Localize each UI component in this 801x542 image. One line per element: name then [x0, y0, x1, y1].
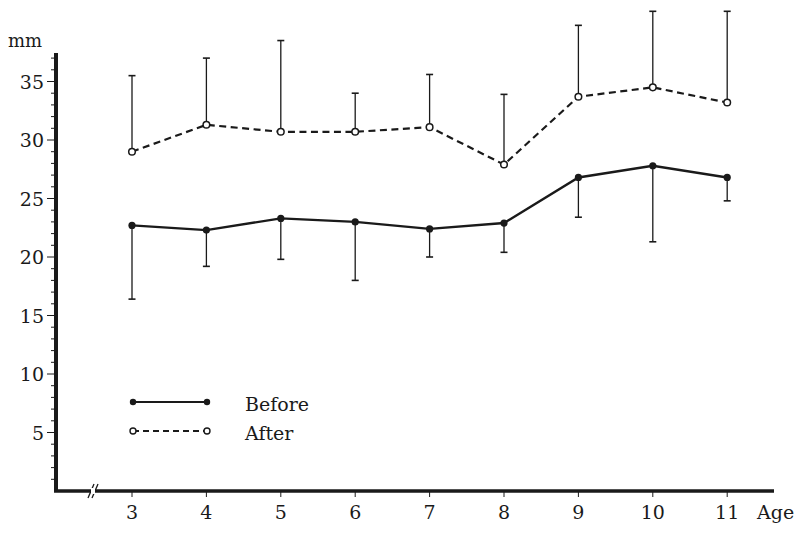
- after-data-point: [352, 129, 359, 136]
- after-data-point: [575, 93, 582, 100]
- after-data-point: [501, 161, 508, 168]
- legend-after-marker-left: [130, 428, 136, 434]
- before-series-line: [132, 166, 727, 230]
- y-axis-unit-label: mm: [8, 30, 42, 51]
- x-tick-label: 3: [126, 501, 138, 523]
- before-data-point: [724, 174, 731, 181]
- after-data-point: [724, 99, 731, 106]
- after-data-point: [278, 129, 285, 136]
- y-tick-label: 35: [20, 71, 44, 93]
- x-tick-label: 5: [275, 501, 287, 523]
- after-data-point: [203, 121, 210, 128]
- legend-before-marker-right: [204, 399, 210, 405]
- x-tick-label: 8: [498, 501, 510, 523]
- y-tick-label: 10: [20, 363, 44, 385]
- legend-before-marker-left: [130, 399, 136, 405]
- x-tick-label: 11: [715, 501, 739, 523]
- y-tick-label: 5: [32, 422, 44, 444]
- before-data-point: [128, 222, 135, 229]
- line-chart: 5101520253035 34567891011 Before After m…: [0, 0, 801, 542]
- before-data-point: [575, 174, 582, 181]
- after-data-point: [129, 148, 136, 155]
- y-tick-label: 25: [20, 188, 44, 210]
- y-tick-label: 30: [20, 129, 44, 151]
- x-tick-label: 4: [200, 501, 212, 523]
- x-tick-label: 6: [349, 501, 361, 523]
- before-data-point: [352, 218, 359, 225]
- x-axis-unit-label: Age: [756, 501, 794, 523]
- y-tick-label: 20: [20, 246, 44, 268]
- legend-after-label: After: [244, 422, 294, 444]
- after-data-point: [426, 124, 433, 131]
- x-axis-ticks: 34567891011: [126, 492, 739, 523]
- y-axis-ticks: 5101520253035: [20, 58, 55, 479]
- y-tick-label: 15: [20, 305, 44, 327]
- before-data-point: [426, 225, 433, 232]
- x-tick-label: 7: [424, 501, 436, 523]
- before-data-point: [649, 162, 656, 169]
- after-data-point: [650, 84, 657, 91]
- before-data-point: [277, 215, 284, 222]
- before-data-point: [500, 219, 507, 226]
- x-tick-label: 10: [641, 501, 665, 523]
- legend-after-marker-right: [204, 428, 210, 434]
- before-data-point: [203, 226, 210, 233]
- x-tick-label: 9: [572, 501, 584, 523]
- axes: [54, 53, 774, 498]
- error-bars: [129, 11, 731, 299]
- legend: Before After: [130, 393, 309, 444]
- axis-break-gap: [91, 488, 95, 494]
- legend-before-label: Before: [245, 393, 309, 415]
